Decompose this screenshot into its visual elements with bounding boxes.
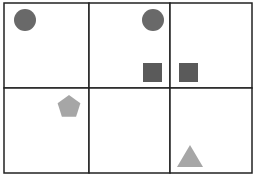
- square-shape: [179, 63, 198, 82]
- circle-shape: [142, 9, 164, 31]
- circle-shape: [14, 9, 36, 31]
- square-shape: [143, 63, 162, 82]
- grid-cell: [89, 88, 170, 173]
- grid-diagram: [0, 0, 257, 177]
